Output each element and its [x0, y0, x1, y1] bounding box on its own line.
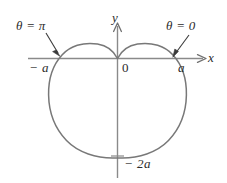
- y-axis: [111, 23, 124, 178]
- y-axis-label: y: [112, 11, 118, 24]
- neg-a-label: − a: [29, 61, 49, 74]
- theta-zero-pointer-arrow: [173, 35, 189, 57]
- neg-2a-label: − 2a: [124, 157, 151, 170]
- a-label: a: [178, 61, 185, 74]
- theta-pi-arrow-head: [53, 50, 60, 56]
- theta-zero-label: θ = 0: [166, 19, 196, 32]
- theta-pi-label: θ = π: [16, 19, 46, 32]
- theta-pi-pointer-arrow: [46, 33, 60, 56]
- origin-label: 0: [122, 61, 129, 74]
- x-axis-label: x: [208, 51, 214, 64]
